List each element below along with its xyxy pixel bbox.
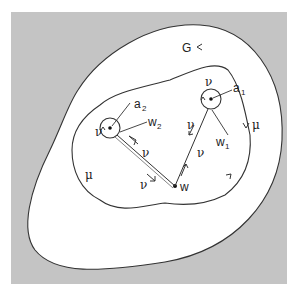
point-a2 [108, 126, 112, 130]
label-a1: a [233, 81, 240, 95]
point-a1 [209, 97, 213, 101]
contour-diagram: G a 2 w 2 a 1 w 1 w μ μ ν ν ν ν ν ν [0, 0, 298, 295]
label-a2: a [134, 97, 141, 111]
label-w2: w [147, 115, 157, 129]
label-nu-cut-a2: ν [142, 146, 149, 160]
label-nu-mid: ν [197, 146, 204, 160]
label-nu-a1: ν [205, 75, 212, 89]
svg-text:2: 2 [142, 104, 147, 113]
label-nu-a2: ν [95, 125, 102, 139]
label-w: w [179, 180, 189, 194]
label-nu-bottom: ν [140, 178, 147, 192]
region-label: G [182, 41, 191, 55]
svg-text:1: 1 [241, 88, 246, 97]
svg-text:1: 1 [225, 142, 230, 151]
label-mu-right: μ [252, 118, 260, 132]
label-w1: w [215, 135, 225, 149]
label-nu-cut-a1: ν [187, 118, 194, 132]
label-mu-left: μ [85, 168, 93, 182]
svg-text:2: 2 [157, 122, 162, 131]
